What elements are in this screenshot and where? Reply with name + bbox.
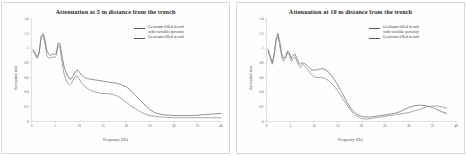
attenuation-figure: Attenuation at 5 m distance from the tre…	[0, 0, 466, 156]
legend-line-icon	[134, 38, 145, 39]
x-tick-label: 15	[336, 124, 340, 128]
x-axis-label: Frequency [Hz]	[2, 137, 229, 142]
y-tick-label: 0.4	[24, 90, 29, 94]
x-tick-label: 40	[219, 124, 223, 128]
x-tick-label: 10	[77, 124, 81, 128]
x-tick-label: 35	[196, 124, 200, 128]
x-tick-label: 0	[266, 124, 268, 128]
x-tick-label: 10	[312, 124, 316, 128]
y-tick-label: 1.4	[259, 17, 264, 21]
y-tick-label: 1.2	[259, 32, 264, 36]
legend-label: Geofoam filled trench	[148, 35, 184, 40]
y-tick-label: 0.2	[259, 105, 264, 109]
x-tick-label: 5	[289, 124, 291, 128]
y-tick-label: 0.4	[259, 90, 264, 94]
x-tick-label: 5	[54, 124, 56, 128]
series-line	[268, 33, 447, 117]
x-tick-label: 35	[431, 124, 435, 128]
x-tick-label: 20	[125, 124, 129, 128]
legend-label: Geofoam filled trench with variable poro…	[148, 25, 184, 34]
y-tick-label: 0.6	[24, 76, 29, 80]
legend-label: Geofoam filled trench with variable poro…	[383, 25, 419, 34]
legend-line-icon	[369, 38, 380, 39]
y-tick-label: 0.8	[259, 61, 264, 65]
y-tick-label: 1.2	[24, 32, 29, 36]
x-tick-label: 30	[407, 124, 411, 128]
legend: Geofoam filled trench with variable poro…	[369, 25, 457, 41]
x-tick-label: 15	[101, 124, 105, 128]
series-line	[33, 36, 221, 118]
y-axis-label: Attenuation ratio	[249, 66, 253, 90]
x-tick-label: 25	[148, 124, 152, 128]
chart-panel-10m: Attenuation at 10 m distance from the tr…	[236, 2, 465, 154]
legend-item: Geofoam filled trench	[134, 35, 222, 40]
y-tick-label: 1	[262, 46, 264, 50]
y-tick-label: 0.8	[24, 61, 29, 65]
series-line	[268, 36, 447, 119]
x-tick-label: 20	[360, 124, 364, 128]
y-tick-label: 1	[27, 46, 29, 50]
chart-panel-5m: Attenuation at 5 m distance from the tre…	[1, 2, 230, 154]
legend-item: Geofoam filled trench	[369, 35, 457, 40]
x-tick-label: 0	[31, 124, 33, 128]
legend: Geofoam filled trench with variable poro…	[134, 25, 222, 41]
x-axis-label: Frequency [Hz]	[237, 137, 464, 142]
x-tick-label: 30	[172, 124, 176, 128]
y-tick-label: 0.6	[259, 76, 264, 80]
x-tick-label: 40	[454, 124, 458, 128]
y-tick-label: 1.4	[24, 17, 29, 21]
legend-line-icon	[134, 28, 145, 29]
x-tick-label: 25	[383, 124, 387, 128]
legend-line-icon	[369, 28, 380, 29]
legend-item: Geofoam filled trench with variable poro…	[369, 25, 457, 34]
y-axis-label: Attenuation ratio	[14, 66, 18, 90]
y-tick-label: 0.2	[24, 105, 29, 109]
legend-label: Geofoam filled trench	[383, 35, 419, 40]
y-tick-label: 0	[27, 120, 29, 124]
legend-item: Geofoam filled trench with variable poro…	[134, 25, 222, 34]
y-tick-label: 0	[262, 120, 264, 124]
